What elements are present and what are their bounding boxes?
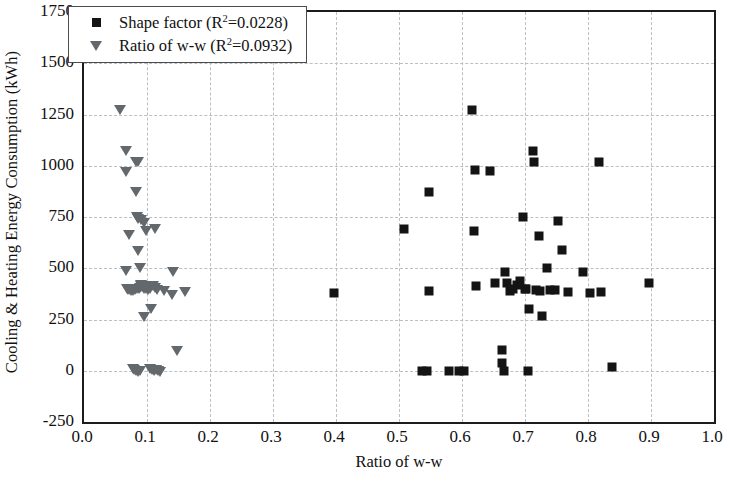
data-point-square [645,278,654,287]
y-tick-label: 1250 [40,104,74,121]
data-point-square [519,213,528,222]
data-point-square [534,232,543,241]
data-point-square [529,157,538,166]
y-tick-label: 750 [49,207,75,224]
data-point-square [444,366,453,375]
data-point-square [425,286,434,295]
x-tick-label: 0.0 [71,428,92,445]
data-point-square [596,288,605,297]
data-point-square [490,278,499,287]
data-point-square [330,288,339,297]
x-tick-label: 0.4 [323,428,344,445]
data-point-square [585,288,594,297]
data-point-triangle [114,105,126,115]
data-point-square [471,281,480,290]
gridline-vertical [651,12,652,422]
x-tick-label: 0.2 [197,428,218,445]
data-point-square [486,166,495,175]
data-point-square [557,245,566,254]
data-point-square [524,366,533,375]
y-tick-label: 1000 [40,155,74,172]
x-tick-label: 0.9 [638,428,659,445]
scatter-chart-figure: Cooling & Heating Energy Consumption (kW… [0,0,733,480]
x-tick-label: 0.8 [575,428,596,445]
data-point-triangle [123,230,135,240]
x-tick-label: 0.3 [260,428,281,445]
triangle-marker-icon [79,41,113,51]
x-axis-title-text: Ratio of w-w [355,452,442,471]
x-tick-label: 0.6 [449,428,470,445]
data-point-square [525,305,534,314]
data-point-square [500,268,509,277]
data-point-square [423,366,432,375]
data-point-triangle [154,367,166,377]
data-point-square [551,285,560,294]
x-tick-label: 0.5 [386,428,407,445]
data-point-triangle [132,246,144,256]
data-point-square [595,157,604,166]
y-axis-tick-labels: -25002505007501000125015001750 [22,10,78,424]
data-point-triangle [166,290,178,300]
data-point-square [522,284,531,293]
legend-label-ratio-of-w-w: Ratio of w-w (R2=0.0932) [113,36,292,56]
data-point-triangle [120,146,132,156]
data-point-triangle [149,224,161,234]
data-point-square [528,147,537,156]
gridline-vertical [399,12,400,422]
data-point-square [500,366,509,375]
data-point-triangle [145,304,157,314]
data-point-square [553,217,562,226]
legend-item-ratio-of-w-w: Ratio of w-w (R2=0.0932) [79,34,292,57]
gridline-vertical [147,12,148,422]
data-point-square [497,346,506,355]
data-point-square [536,286,545,295]
data-point-square [607,362,616,371]
data-point-triangle [167,267,179,277]
data-point-triangle [179,287,191,297]
data-point-triangle [130,187,142,197]
data-point-square [563,287,572,296]
gridline-vertical [588,12,589,422]
y-tick-label: -250 [43,412,74,429]
legend-label-shape-factor: Shape factor (R2=0.0228) [113,13,288,33]
legend-item-shape-factor: Shape factor (R2=0.0228) [79,11,292,34]
y-tick-label: 0 [66,360,75,377]
gridline-vertical [336,12,337,422]
data-point-square [468,106,477,115]
data-point-square [578,268,587,277]
x-axis-tick-labels: 0.00.10.20.30.40.50.60.70.80.91.0 [82,428,716,452]
data-point-square [538,312,547,321]
data-point-square [471,165,480,174]
data-point-square [459,366,468,375]
x-tick-label: 0.7 [512,428,533,445]
data-point-triangle [132,157,144,167]
gridline-vertical [462,12,463,422]
data-point-triangle [120,266,132,276]
data-point-triangle [171,346,183,356]
data-point-triangle [134,263,146,273]
y-axis-title-text: Cooling & Heating Energy Consumption (kW… [2,51,22,373]
plot-area [82,10,716,424]
data-point-square [424,188,433,197]
data-point-square [543,264,552,273]
square-marker-icon [79,18,113,27]
y-tick-label: 250 [49,309,75,326]
gridline-vertical [273,12,274,422]
x-tick-label: 0.1 [134,428,155,445]
y-tick-label: 500 [49,258,75,275]
x-axis-title: Ratio of w-w [82,452,716,472]
x-tick-label: 1.0 [701,428,722,445]
data-point-triangle [120,167,132,177]
gridline-vertical [210,12,211,422]
data-point-square [469,227,478,236]
data-point-square [400,225,409,234]
y-axis-title: Cooling & Heating Energy Consumption (kW… [0,0,24,424]
chart-legend: Shape factor (R2=0.0228) Ratio of w-w (R… [68,6,307,63]
